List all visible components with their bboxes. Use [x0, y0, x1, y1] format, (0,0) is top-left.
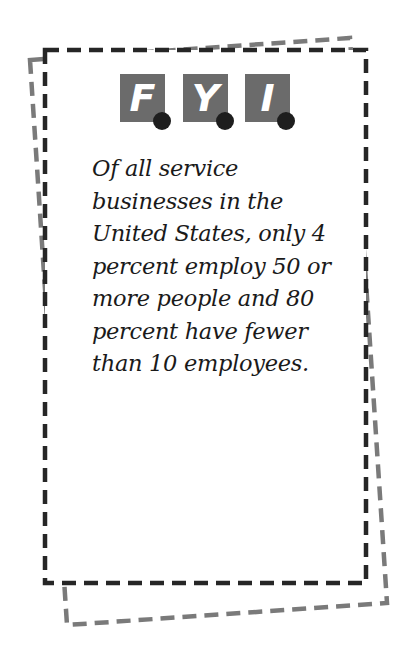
fyi-dot-icon	[216, 112, 234, 130]
fact-line: more people and 80	[92, 285, 314, 311]
fact-line: than 10 employees.	[92, 350, 309, 376]
fact-line: Of all service	[92, 155, 238, 181]
fact-line: United States, only 4	[92, 220, 326, 246]
fyi-dot-icon	[153, 112, 171, 130]
fact-line: percent have fewer	[92, 318, 308, 344]
fact-text: Of all service businesses in the United …	[92, 152, 342, 380]
fyi-dot-icon	[277, 112, 295, 130]
fact-line: businesses in the	[92, 188, 283, 214]
fact-line: percent employ 50 or	[92, 253, 331, 279]
